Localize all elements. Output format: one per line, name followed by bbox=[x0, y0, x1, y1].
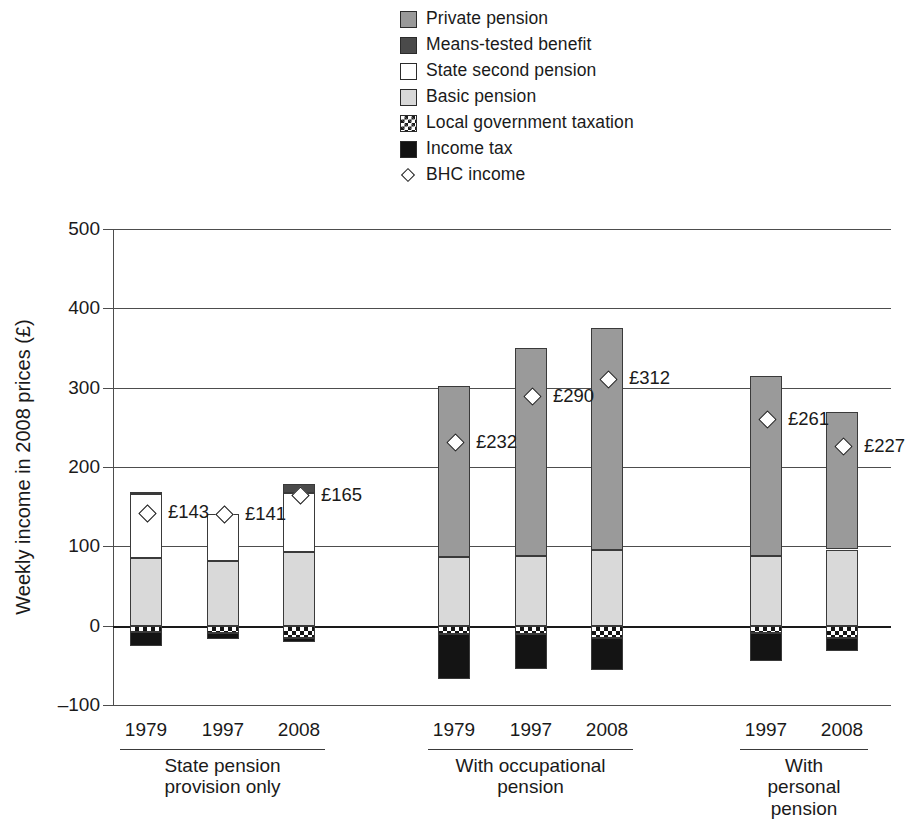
legend-label-local-government-taxation: Local government taxation bbox=[426, 114, 634, 132]
bar-segment-incometax bbox=[207, 633, 239, 639]
bar-segment-private bbox=[515, 348, 547, 556]
legend-swatch-basic-pension bbox=[400, 89, 417, 106]
bar-segment-localtax bbox=[283, 626, 315, 639]
legend-item-income-tax: Income tax bbox=[400, 136, 820, 162]
bar-column bbox=[130, 229, 162, 705]
y-tick--100 bbox=[103, 705, 113, 706]
bar-segment-private bbox=[826, 412, 858, 549]
bar-segment-localtax bbox=[750, 626, 782, 633]
bar-segment-incometax bbox=[515, 634, 547, 669]
group-rule bbox=[120, 749, 325, 750]
bar-segment-private bbox=[750, 376, 782, 556]
bar-segment-basic bbox=[130, 558, 162, 625]
bar-segment-localtax bbox=[591, 626, 623, 639]
bar-segment-localtax bbox=[438, 626, 470, 634]
legend-swatch-local-government-taxation bbox=[400, 115, 417, 132]
plot-area: 5004003002001000–100 £143£141£165£232£29… bbox=[113, 229, 891, 705]
y-axis-title: Weekly income in 2008 prices (£) bbox=[12, 319, 35, 614]
legend-item-state-second-pension: State second pension bbox=[400, 58, 820, 84]
bar-segment-incometax bbox=[438, 634, 470, 679]
bar-segment-incometax bbox=[826, 638, 858, 651]
legend-label-income-tax: Income tax bbox=[426, 140, 513, 158]
bar-segment-incometax bbox=[130, 632, 162, 646]
bar-segment-private bbox=[438, 386, 470, 557]
bar-column bbox=[438, 229, 470, 705]
y-tick-300 bbox=[103, 388, 113, 389]
bar-column bbox=[750, 229, 782, 705]
y-tick-0 bbox=[103, 626, 113, 627]
bar-segment-basic bbox=[207, 561, 239, 626]
bhc-income-value-label: £261 bbox=[788, 408, 829, 430]
legend-label-basic-pension: Basic pension bbox=[426, 88, 536, 106]
y-axis-title-wrap: Weekly income in 2008 prices (£) bbox=[8, 229, 38, 705]
bar-segment-localtax bbox=[515, 626, 547, 634]
bar-segment-basic bbox=[826, 550, 858, 626]
bar-segment-means bbox=[130, 492, 162, 494]
bar-column bbox=[515, 229, 547, 705]
bar-segment-incometax bbox=[283, 638, 315, 641]
x-axis-line bbox=[113, 705, 891, 706]
x-tick-label: 1979 bbox=[433, 719, 475, 741]
y-tick-label-100: 100 bbox=[68, 535, 100, 557]
legend-item-means-tested-benefit: Means-tested benefit bbox=[400, 32, 820, 58]
x-axis-area: 19791997200819791997200819972008 State p… bbox=[113, 705, 891, 820]
legend-swatch-state-second-pension bbox=[400, 63, 417, 80]
legend-label-state-second-pension: State second pension bbox=[426, 62, 596, 80]
bar-column bbox=[826, 229, 858, 705]
x-tick-label: 1997 bbox=[202, 719, 244, 741]
bar-column bbox=[207, 229, 239, 705]
y-tick-label-400: 400 bbox=[68, 297, 100, 319]
bar-segment-localtax bbox=[826, 626, 858, 638]
bar-segment-basic bbox=[591, 550, 623, 625]
legend-label-private-pension: Private pension bbox=[426, 10, 548, 28]
legend-item-basic-pension: Basic pension bbox=[400, 84, 820, 110]
legend-swatch-income-tax bbox=[400, 141, 417, 158]
legend-swatch-private-pension bbox=[400, 11, 417, 28]
group-label: State pension provision only bbox=[164, 755, 280, 798]
bar-segment-basic bbox=[438, 557, 470, 626]
group-label: With occupational pension bbox=[456, 755, 606, 798]
chart-legend: Private pension Means-tested benefit Sta… bbox=[400, 6, 820, 188]
bhc-income-value-label: £141 bbox=[245, 503, 286, 525]
bar-segment-localtax bbox=[207, 626, 239, 633]
bhc-income-value-label: £312 bbox=[629, 367, 670, 389]
y-tick-label--100: –100 bbox=[58, 694, 100, 716]
y-tick-200 bbox=[103, 467, 113, 468]
bhc-income-value-label: £165 bbox=[321, 484, 362, 506]
y-tick-400 bbox=[103, 308, 113, 309]
bar-segment-basic bbox=[283, 552, 315, 626]
y-tick-label-0: 0 bbox=[89, 615, 100, 637]
y-tick-label-200: 200 bbox=[68, 456, 100, 478]
group-label: With personal pension bbox=[761, 755, 848, 819]
bar-segment-basic bbox=[515, 556, 547, 626]
bar-segment-incometax bbox=[750, 633, 782, 661]
bhc-income-value-label: £232 bbox=[476, 431, 517, 453]
group-rule bbox=[740, 749, 868, 750]
bhc-income-value-label: £290 bbox=[553, 385, 594, 407]
y-tick-100 bbox=[103, 546, 113, 547]
bhc-income-value-label: £227 bbox=[864, 435, 905, 457]
bar-segment-private bbox=[591, 328, 623, 550]
x-tick-label: 2008 bbox=[821, 719, 863, 741]
y-tick-label-500: 500 bbox=[68, 218, 100, 240]
x-tick-label: 2008 bbox=[586, 719, 628, 741]
legend-item-private-pension: Private pension bbox=[400, 6, 820, 32]
legend-swatch-means-tested-benefit bbox=[400, 37, 417, 54]
bar-column bbox=[591, 229, 623, 705]
x-tick-label: 1979 bbox=[125, 719, 167, 741]
bar-column bbox=[283, 229, 315, 705]
diamond-marker-icon bbox=[400, 167, 417, 184]
legend-item-bhc-income: BHC income bbox=[400, 162, 820, 188]
bar-segment-incometax bbox=[591, 638, 623, 670]
x-tick-label: 2008 bbox=[278, 719, 320, 741]
x-tick-label: 1997 bbox=[745, 719, 787, 741]
group-rule bbox=[428, 749, 633, 750]
bhc-income-value-label: £143 bbox=[168, 501, 209, 523]
y-tick-500 bbox=[103, 229, 113, 230]
y-tick-label-300: 300 bbox=[68, 377, 100, 399]
legend-item-local-government-taxation: Local government taxation bbox=[400, 110, 820, 136]
bar-segment-basic bbox=[750, 556, 782, 626]
x-tick-label: 1997 bbox=[510, 719, 552, 741]
legend-label-means-tested-benefit: Means-tested benefit bbox=[426, 36, 591, 54]
bar-segment-state2 bbox=[130, 494, 162, 558]
